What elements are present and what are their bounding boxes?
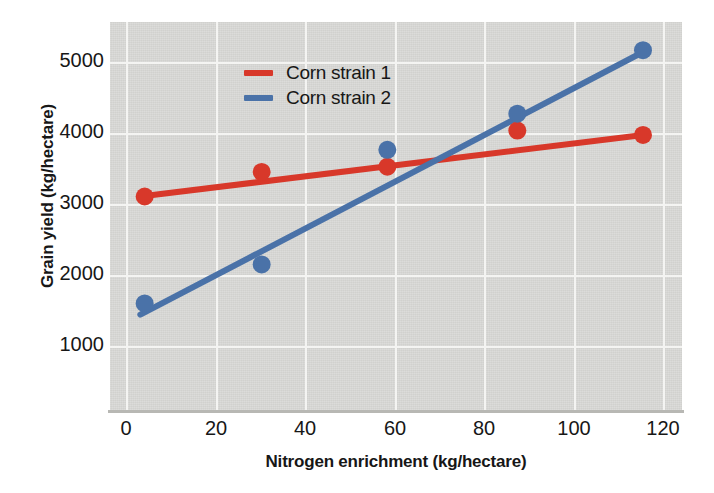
data-point <box>253 163 271 181</box>
data-point <box>508 105 526 123</box>
x-tick-label: 100 <box>544 418 604 438</box>
x-axis-label: Nitrogen enrichment (kg/hectare) <box>110 452 682 472</box>
x-tick-label: 80 <box>454 418 514 438</box>
legend-swatch-red <box>244 70 273 76</box>
x-axis-line <box>108 410 684 413</box>
data-point <box>136 187 154 205</box>
plot-area: Corn strain 1 Corn strain 2 <box>110 22 682 412</box>
y-tick-label: 5000 <box>28 50 104 70</box>
y-axis-tick-labels: 5000 4000 3000 2000 1000 <box>26 0 104 493</box>
legend-item-corn-strain-1[interactable]: Corn strain 1 <box>244 60 391 85</box>
x-tick-label: 120 <box>633 418 693 438</box>
x-tick-label: 60 <box>365 418 425 438</box>
legend-label: Corn strain 1 <box>286 62 391 84</box>
data-point <box>634 41 652 59</box>
y-tick-label: 3000 <box>28 192 104 212</box>
y-tick-label: 4000 <box>28 121 104 141</box>
data-point <box>378 141 396 159</box>
legend-swatch-blue <box>244 95 273 101</box>
legend: Corn strain 1 Corn strain 2 <box>238 56 401 116</box>
y-tick-label: 2000 <box>28 263 104 283</box>
y-tick-label: 1000 <box>28 334 104 354</box>
x-tick-label: 40 <box>275 418 335 438</box>
chart-figure: Grain yield (kg/hectare) 5000 4000 3000 … <box>0 0 714 493</box>
legend-item-corn-strain-2[interactable]: Corn strain 2 <box>244 85 391 110</box>
data-point <box>378 158 396 176</box>
data-point <box>253 255 271 273</box>
data-point <box>508 122 526 140</box>
data-point <box>136 294 154 312</box>
legend-label: Corn strain 2 <box>286 87 391 109</box>
x-tick-label: 20 <box>186 418 246 438</box>
x-tick-label: 0 <box>96 418 156 438</box>
data-point <box>634 126 652 144</box>
